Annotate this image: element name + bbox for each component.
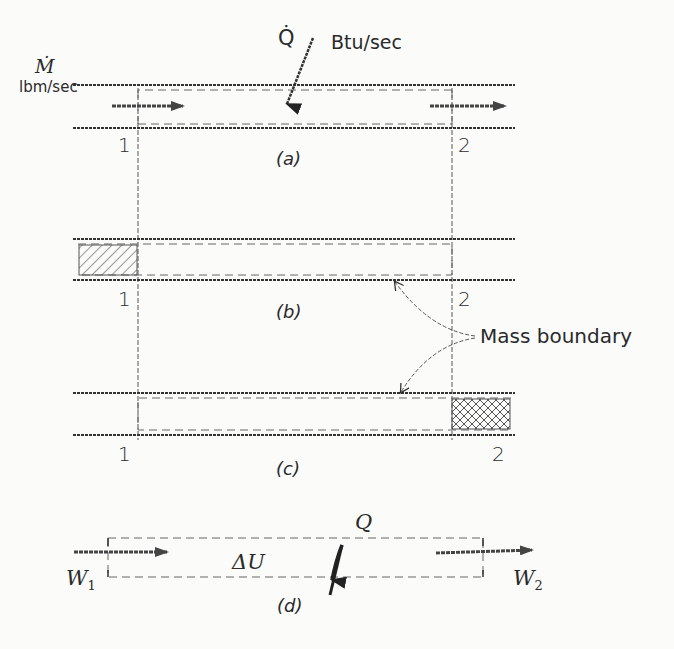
caption-d: (d) <box>277 597 302 615</box>
panel-d-system <box>74 538 532 595</box>
mass-boundary-label: Mass boundary <box>480 326 632 346</box>
heat-d-arrow-icon <box>332 545 342 580</box>
heat-label-d: Q <box>355 512 372 533</box>
caption-a: (a) <box>276 150 301 168</box>
work-out-arrow-icon <box>436 550 532 553</box>
section-1-label-c: 1 <box>118 444 131 464</box>
work-in-label: W1 <box>66 568 96 592</box>
panel-b-pipe <box>73 239 515 280</box>
section-2-label-a: 2 <box>458 135 471 155</box>
internal-energy-label: ΔU <box>232 552 265 573</box>
fluid-slug-c <box>452 399 510 429</box>
work-out-subscript: 2 <box>535 578 543 593</box>
work-out-label: W2 <box>513 568 543 592</box>
heat-rate-symbol: Q̇ <box>278 28 295 49</box>
mass-flow-symbol: Ṁ <box>35 57 54 76</box>
caption-b: (b) <box>276 303 301 321</box>
panel-a-pipe <box>73 38 515 128</box>
section-2-label-c: 2 <box>492 444 505 464</box>
section-1-label-b: 1 <box>118 289 131 309</box>
section-2-label-b: 2 <box>458 289 471 309</box>
section-lines <box>138 88 452 440</box>
thermo-flow-diagram: Ṁ lbm/sec Q̇ Btu/sec 1 2 (a) 1 2 (b) Mas… <box>0 0 674 649</box>
caption-c: (c) <box>276 460 300 478</box>
section-1-label-a: 1 <box>118 135 131 155</box>
leader-arrow-c-icon <box>401 338 475 392</box>
fluid-slug-b <box>79 245 137 275</box>
panel-c-pipe <box>73 393 515 435</box>
heat-rate-unit: Btu/sec <box>331 33 402 52</box>
work-out-symbol: W <box>513 566 535 590</box>
work-in-subscript: 1 <box>88 578 96 593</box>
work-in-symbol: W <box>66 566 88 590</box>
mass-flow-unit: lbm/sec <box>19 80 78 95</box>
